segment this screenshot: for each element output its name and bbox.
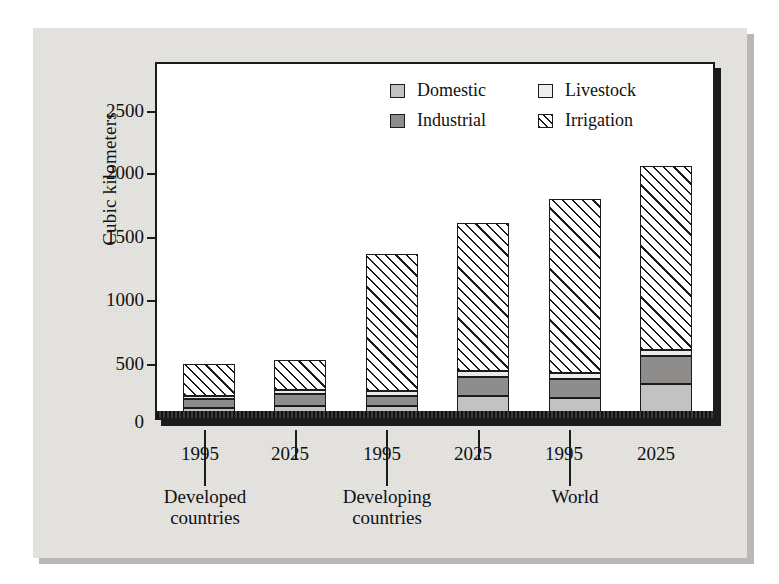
legend-label-industrial: Industrial (417, 110, 486, 131)
bar-world-1995 (549, 199, 601, 419)
x-tick-label-developed-2025: 2025 (245, 443, 335, 465)
bar-segment-irrigation (366, 254, 418, 390)
group-label-line2: countries (120, 508, 290, 529)
page-shadow-bottom (39, 558, 754, 564)
y-tick-label-500: 500 (82, 354, 144, 373)
legend-item-livestock: Livestock (538, 80, 636, 101)
bar-segment-livestock (183, 396, 235, 400)
group-label-developed: Developed countries (120, 487, 290, 528)
y-tick-label-2000: 2000 (82, 163, 144, 182)
legend-row: Domestic Livestock (390, 80, 690, 101)
legend-swatch-irrigation-icon (538, 114, 553, 128)
bar-developing-countries-2025 (457, 223, 509, 419)
legend-item-industrial: Industrial (390, 110, 538, 131)
x-tick-label-developed-1995: 1995 (155, 443, 245, 465)
legend-row: Industrial Irrigation (390, 110, 690, 131)
legend-item-domestic: Domestic (390, 80, 538, 101)
y-tick-label-2500: 2500 (82, 101, 144, 120)
bar-segment-livestock (457, 371, 509, 377)
bar-world-2025 (640, 166, 692, 419)
bar-segment-irrigation (274, 360, 326, 390)
bar-segment-livestock (274, 390, 326, 394)
bar-segment-livestock (366, 391, 418, 397)
bar-segment-industrial (640, 356, 692, 384)
bar-segment-industrial (274, 394, 326, 406)
group-separator (569, 430, 571, 486)
legend-item-irrigation: Irrigation (538, 110, 633, 131)
group-separator (478, 430, 480, 460)
x-tick-label-developing-2025: 2025 (428, 443, 518, 465)
bar-segment-irrigation (640, 166, 692, 350)
legend-label-irrigation: Irrigation (565, 110, 633, 131)
y-tick-label-1000: 1000 (82, 290, 144, 309)
group-separator (386, 430, 388, 486)
group-label-line1: Developed (120, 487, 290, 508)
bar-segment-irrigation (183, 364, 235, 396)
plot-panel: Domestic Livestock Industrial Irrigation (155, 62, 715, 420)
group-label-developing: Developing countries (302, 487, 472, 528)
group-label-line1: World (490, 487, 660, 508)
page-shadow-right (747, 34, 754, 564)
group-label-world: World (490, 487, 660, 508)
legend: Domestic Livestock Industrial Irrigation (390, 80, 690, 140)
x-tick-label-developing-1995: 1995 (337, 443, 427, 465)
bar-segment-industrial (549, 379, 601, 398)
x-tick-label-world-1995: 1995 (519, 443, 609, 465)
y-tick-label-1500: 1500 (82, 227, 144, 246)
bar-segment-irrigation (549, 199, 601, 372)
group-label-line2: countries (302, 508, 472, 529)
group-separator (295, 430, 297, 460)
y-tick-label-0: 0 (82, 412, 144, 431)
figure-root: Cubic kilometers 2500 2000 1500 1000 500… (0, 0, 779, 584)
legend-swatch-industrial-icon (390, 114, 405, 128)
legend-label-livestock: Livestock (565, 80, 636, 101)
group-label-line1: Developing (302, 487, 472, 508)
bar-segment-industrial (457, 377, 509, 396)
legend-label-domestic: Domestic (417, 80, 486, 101)
legend-swatch-domestic-icon (390, 84, 405, 98)
group-separator (204, 430, 206, 486)
bar-developing-countries-1995 (366, 254, 418, 419)
bar-segment-industrial (366, 396, 418, 406)
bar-segment-livestock (640, 350, 692, 356)
x-tick-label-world-2025: 2025 (611, 443, 701, 465)
x-axis-baseline (157, 411, 713, 418)
legend-swatch-livestock-icon (538, 84, 553, 98)
bar-segment-irrigation (457, 223, 509, 371)
bar-segment-industrial (183, 399, 235, 408)
bar-segment-livestock (549, 373, 601, 379)
